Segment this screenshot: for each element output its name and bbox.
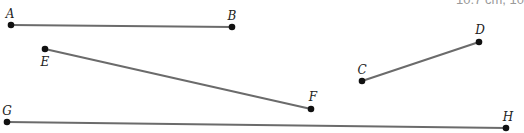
point-b: [229, 24, 236, 31]
segment-cd: [362, 42, 479, 81]
point-label-c: C: [357, 63, 366, 77]
point-h: [503, 125, 510, 132]
point-e: [42, 46, 49, 53]
point-g: [4, 119, 11, 126]
point-a: [8, 22, 15, 29]
point-label-a: A: [5, 7, 15, 21]
point-label-d: D: [474, 23, 485, 37]
point-label-e: E: [40, 55, 50, 69]
point-d: [476, 39, 483, 46]
segment-ef: [45, 49, 311, 109]
point-label-h: H: [502, 110, 514, 124]
segment-ab: [11, 25, 232, 27]
diagram-svg: ABCDEFGH: [0, 0, 524, 133]
point-f: [308, 106, 315, 113]
point-label-b: B: [227, 9, 237, 23]
segment-gh: [7, 122, 506, 128]
point-label-f: F: [308, 90, 318, 104]
segments-diagram: 10.7 cm, 10 ABCDEFGH: [0, 0, 524, 133]
point-label-g: G: [2, 104, 12, 118]
point-c: [359, 78, 366, 85]
